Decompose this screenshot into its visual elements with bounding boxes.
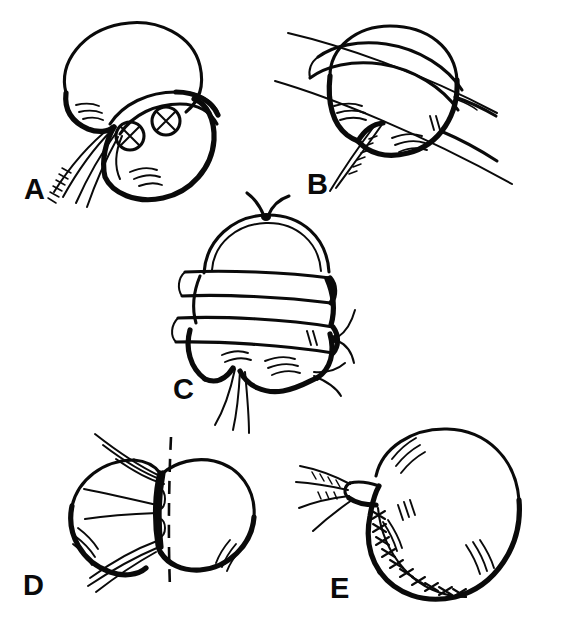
panel-c-knot-top (261, 213, 271, 221)
panel-label-d: D (23, 569, 44, 601)
panel-label-b: B (307, 168, 328, 200)
panel-label-e: E (330, 572, 349, 604)
figure-background (0, 0, 562, 623)
figure-canvas: A (0, 0, 562, 623)
surgical-figure: A (0, 0, 562, 623)
panel-label-a: A (24, 173, 45, 205)
panel-label-c: C (173, 373, 194, 405)
